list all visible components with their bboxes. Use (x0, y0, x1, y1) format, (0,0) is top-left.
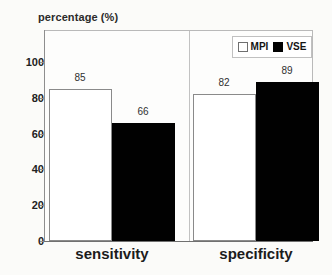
legend-entry-vse[interactable]: VSE (273, 42, 306, 52)
y-tick-label-60: 60 (4, 128, 44, 140)
bar-sensitivity-vse[interactable] (112, 123, 175, 241)
bar-chart-figure: percentage (%) 100 80 60 40 20 0 85 66 8… (0, 0, 332, 275)
y-tick-label-40: 40 (4, 163, 44, 175)
y-tick-label-100: 100 (4, 56, 44, 68)
legend-label-vse: VSE (286, 42, 306, 52)
y-axis: 100 80 60 40 20 0 (0, 0, 44, 275)
bar-value-sensitivity-vse: 66 (137, 106, 148, 117)
y-tick-label-80: 80 (4, 92, 44, 104)
legend-entry-mpi[interactable]: MPI (238, 42, 269, 52)
white-square-swatch-icon (238, 42, 248, 52)
x-category-label-specificity: specificity (219, 245, 292, 262)
y-axis-line (44, 30, 45, 242)
x-category-label-sensitivity: sensitivity (75, 245, 148, 262)
bar-specificity-mpi[interactable] (193, 94, 256, 241)
bar-value-specificity-mpi: 82 (218, 77, 229, 88)
bar-sensitivity-mpi[interactable] (49, 89, 112, 241)
y-tick-label-0: 0 (4, 235, 44, 247)
bar-specificity-vse[interactable] (256, 82, 319, 241)
group-divider (189, 31, 190, 241)
y-axis-title: percentage (%) (38, 11, 118, 23)
y-tick-label-20: 20 (4, 199, 44, 211)
bar-value-sensitivity-mpi: 85 (74, 72, 85, 83)
legend-label-mpi: MPI (251, 42, 269, 52)
bar-value-specificity-vse: 89 (281, 65, 292, 76)
legend: MPI VSE (232, 36, 312, 58)
x-axis-line (44, 241, 313, 242)
black-square-swatch-icon (273, 42, 283, 52)
